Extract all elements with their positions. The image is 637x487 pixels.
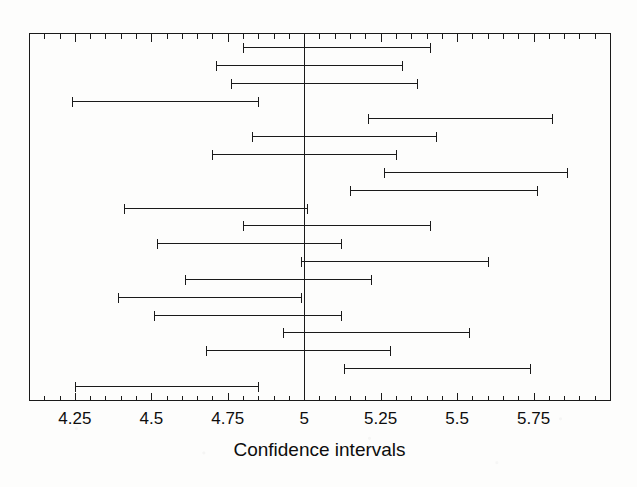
confidence-interval-row [207, 346, 391, 356]
confidence-interval-plot: 4.254.54.7555.255.55.75Confidence interv… [0, 0, 637, 487]
confidence-interval-row [244, 221, 431, 231]
confidence-interval-row [155, 311, 342, 321]
x-axis-tick-label: 4.5 [139, 409, 163, 428]
confidence-interval-row [232, 79, 418, 89]
x-axis-tick-label: 5 [299, 409, 308, 428]
x-axis-tick-label: 5.5 [445, 409, 469, 428]
confidence-interval-row [186, 275, 372, 285]
confidence-interval-row [345, 364, 531, 374]
x-axis-title: Confidence intervals [233, 439, 405, 460]
confidence-interval-row [217, 61, 403, 71]
x-axis-tick-label: 5.75 [517, 409, 550, 428]
confidence-interval-row [119, 293, 302, 303]
plot-border [30, 34, 611, 401]
confidence-interval-row [158, 239, 342, 249]
confidence-interval-row [125, 204, 308, 214]
confidence-interval-row [284, 328, 470, 338]
confidence-interval-row [351, 186, 538, 196]
confidence-interval-figure: 4.254.54.7555.255.55.75Confidence interv… [0, 0, 637, 487]
confidence-interval-row [73, 97, 259, 107]
x-axis-tick-label: 5.25 [364, 409, 397, 428]
confidence-interval-row [302, 257, 489, 267]
confidence-interval-row [76, 382, 259, 392]
x-axis-tick-label: 4.75 [211, 409, 244, 428]
confidence-interval-row [385, 168, 568, 178]
confidence-interval-row [253, 132, 437, 142]
x-axis-tick-label: 4.25 [58, 409, 91, 428]
confidence-interval-row [369, 114, 553, 124]
confidence-interval-row [244, 43, 431, 53]
